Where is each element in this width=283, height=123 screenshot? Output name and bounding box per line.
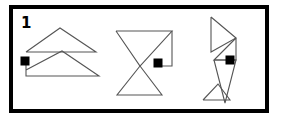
figure-1-marker-square (21, 57, 30, 66)
figure-2-marker-square (154, 59, 163, 68)
figure-canvas: 1 (0, 0, 283, 123)
figure-3-marker-square (226, 56, 235, 65)
panel-number-label: 1 (21, 14, 31, 32)
figure-panel: 1 (0, 0, 283, 123)
